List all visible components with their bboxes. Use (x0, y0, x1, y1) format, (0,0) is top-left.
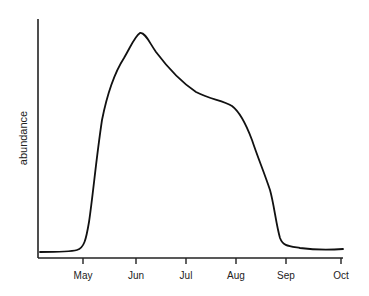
abundance-chart: May Jun Jul Aug Sep Oct abundance (0, 0, 369, 296)
y-axis-label: abundance (17, 111, 29, 165)
abundance-curve (40, 33, 343, 252)
x-tick-label-jun: Jun (128, 270, 144, 281)
x-tick-label-oct: Oct (333, 270, 349, 281)
x-tick-label-may: May (74, 270, 93, 281)
x-tick-label-jul: Jul (180, 270, 193, 281)
x-ticks (83, 258, 341, 264)
x-tick-label-sep: Sep (277, 270, 295, 281)
x-tick-label-aug: Aug (227, 270, 245, 281)
